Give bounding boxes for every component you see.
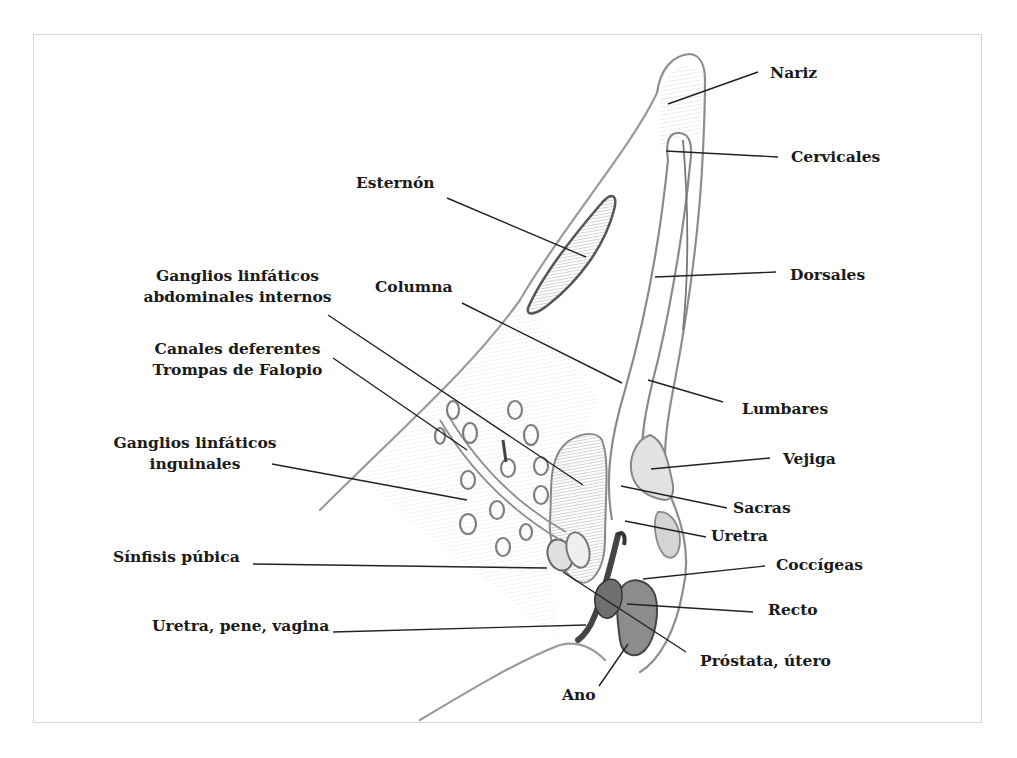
label-uretra-pene-vagina: Uretra, pene, vagina <box>152 615 329 636</box>
label-coccigeas: Coccígeas <box>776 554 863 575</box>
label-recto: Recto <box>768 599 818 620</box>
label-cervicales: Cervicales <box>791 146 880 167</box>
label-columna: Columna <box>375 276 453 297</box>
label-canales-line2: Trompas de Falopio <box>145 359 330 380</box>
label-sinfisis-pubica: Sínfisis púbica <box>113 546 240 567</box>
label-sacras: Sacras <box>733 497 791 518</box>
label-lumbares: Lumbares <box>742 398 828 419</box>
rectum <box>617 580 657 655</box>
label-esternon: Esternón <box>356 172 435 193</box>
label-ganglios-abdominales: Ganglios linfáticos abdominales internos <box>135 265 340 307</box>
label-uretra: Uretra <box>711 525 768 546</box>
label-ano: Ano <box>562 684 596 705</box>
label-dorsales: Dorsales <box>790 264 865 285</box>
label-canales: Canales deferentes Trompas de Falopio <box>145 338 330 380</box>
label-ganglios-inguinales: Ganglios linfáticos inguinales <box>110 432 280 474</box>
head-shading <box>660 66 703 150</box>
label-vejiga: Vejiga <box>783 448 836 469</box>
label-prostata-utero: Próstata, útero <box>700 650 831 671</box>
label-ganglios-abdominales-line1: Ganglios linfáticos <box>135 265 340 286</box>
label-ganglios-inguinales-line1: Ganglios linfáticos <box>110 432 280 453</box>
label-ganglios-inguinales-line2: inguinales <box>110 453 280 474</box>
sternum <box>528 196 615 314</box>
label-ganglios-abdominales-line2: abdominales internos <box>135 286 340 307</box>
label-canales-line1: Canales deferentes <box>145 338 330 359</box>
bladder-lower <box>655 512 680 558</box>
label-nariz: Nariz <box>770 62 817 83</box>
